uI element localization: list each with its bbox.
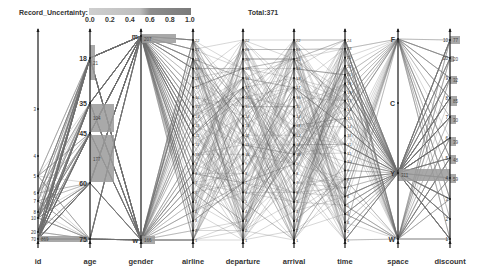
svg-text:15: 15 — [296, 104, 301, 109]
svg-text:869: 869 — [41, 237, 49, 242]
svg-text:30: 30 — [453, 118, 459, 123]
svg-text:311: 311 — [401, 173, 409, 178]
svg-text:15: 15 — [195, 104, 200, 109]
svg-text:59: 59 — [453, 177, 459, 182]
svg-text:18: 18 — [195, 76, 200, 81]
svg-text:70: 70 — [31, 237, 37, 242]
svg-text:20: 20 — [245, 57, 250, 62]
svg-text:32: 32 — [453, 78, 459, 83]
svg-text:17: 17 — [245, 85, 250, 90]
svg-text:20: 20 — [296, 57, 301, 62]
plot-area: 869345678102070211041771835456075207166m… — [0, 0, 487, 279]
svg-text:1: 1 — [296, 238, 299, 243]
svg-text:16: 16 — [245, 95, 250, 100]
axis-age[interactable]: 211041771835456075 — [79, 28, 114, 248]
svg-text:16: 16 — [195, 95, 200, 100]
svg-text:13: 13 — [296, 123, 301, 128]
svg-text:7: 7 — [347, 185, 350, 190]
parallel-coordinates-chart: Record_Uncertainty: 0.00.20.40.60.81.0 T… — [0, 0, 487, 279]
svg-text:14: 14 — [245, 114, 250, 119]
svg-text:22: 22 — [245, 38, 250, 43]
axis-label-space: space — [387, 257, 408, 266]
svg-text:10: 10 — [296, 152, 301, 157]
axis-label-age: age — [84, 257, 97, 266]
svg-text:166: 166 — [144, 238, 152, 243]
svg-text:8: 8 — [33, 210, 36, 215]
svg-text:18: 18 — [79, 55, 87, 62]
svg-text:20: 20 — [195, 57, 200, 62]
svg-text:8: 8 — [445, 96, 448, 101]
svg-text:12: 12 — [347, 142, 352, 147]
svg-text:177: 177 — [93, 157, 101, 162]
svg-text:45: 45 — [79, 130, 87, 137]
svg-text:48: 48 — [453, 158, 459, 163]
svg-text:15: 15 — [245, 104, 250, 109]
svg-text:13: 13 — [195, 123, 200, 128]
svg-text:1: 1 — [445, 237, 448, 242]
svg-text:5: 5 — [347, 203, 350, 208]
svg-text:2: 2 — [296, 228, 299, 233]
svg-text:8: 8 — [296, 171, 299, 176]
svg-text:24: 24 — [347, 38, 352, 43]
svg-text:4: 4 — [33, 154, 36, 159]
svg-text:8: 8 — [347, 177, 350, 182]
axis-gender[interactable]: 207166mw — [132, 28, 176, 248]
svg-text:14: 14 — [296, 114, 301, 119]
axis-space[interactable]: 311FCYW — [388, 28, 450, 248]
axis-time[interactable]: 242322212019181716151413121110987654321 — [344, 28, 353, 248]
svg-text:10: 10 — [443, 38, 449, 43]
svg-text:W: W — [388, 236, 395, 243]
svg-text:15: 15 — [347, 116, 352, 121]
svg-text:19: 19 — [245, 66, 250, 71]
svg-text:18: 18 — [347, 90, 352, 95]
svg-text:20: 20 — [31, 230, 37, 235]
svg-text:1: 1 — [245, 238, 248, 243]
svg-text:18: 18 — [245, 76, 250, 81]
svg-text:12: 12 — [195, 133, 200, 138]
svg-text:12: 12 — [296, 133, 301, 138]
svg-text:21: 21 — [296, 47, 301, 52]
axis-departure[interactable]: 22212019181716151413121110987654321 — [242, 28, 251, 248]
svg-text:60: 60 — [79, 180, 87, 187]
svg-text:2: 2 — [445, 217, 448, 222]
axis-label-arrival: arrival — [283, 257, 306, 266]
svg-text:85: 85 — [453, 99, 459, 104]
svg-text:3: 3 — [347, 220, 350, 225]
axis-label-gender: gender — [128, 257, 153, 266]
svg-text:104: 104 — [93, 116, 101, 121]
svg-text:F: F — [391, 36, 396, 43]
svg-text:6: 6 — [347, 194, 350, 199]
svg-text:21: 21 — [347, 64, 352, 69]
svg-text:20: 20 — [453, 57, 459, 62]
svg-text:35: 35 — [79, 100, 87, 107]
svg-text:75: 75 — [79, 236, 87, 243]
svg-text:19: 19 — [296, 66, 301, 71]
svg-text:22: 22 — [296, 38, 301, 43]
axis-label-id: id — [35, 257, 42, 266]
svg-text:7: 7 — [33, 199, 36, 204]
svg-text:10: 10 — [347, 159, 352, 164]
axis-label-airline: airline — [182, 257, 204, 266]
svg-text:12: 12 — [245, 133, 250, 138]
svg-text:10: 10 — [31, 216, 37, 221]
svg-text:19: 19 — [347, 81, 352, 86]
svg-text:14: 14 — [347, 124, 352, 129]
svg-text:13: 13 — [347, 133, 352, 138]
svg-text:2: 2 — [347, 229, 350, 234]
svg-text:23: 23 — [347, 46, 352, 51]
svg-text:13: 13 — [245, 123, 250, 128]
svg-text:Y: Y — [390, 170, 395, 177]
svg-text:17: 17 — [296, 85, 301, 90]
svg-text:w: w — [132, 237, 139, 244]
svg-text:22: 22 — [195, 38, 200, 43]
svg-text:20: 20 — [347, 72, 352, 77]
svg-text:19: 19 — [195, 66, 200, 71]
svg-text:77: 77 — [453, 38, 459, 43]
svg-text:6: 6 — [33, 191, 36, 196]
svg-text:6: 6 — [445, 136, 448, 141]
svg-text:17: 17 — [347, 98, 352, 103]
svg-text:3: 3 — [33, 107, 36, 112]
svg-text:16: 16 — [347, 107, 352, 112]
svg-text:16: 16 — [296, 95, 301, 100]
svg-text:17: 17 — [195, 85, 200, 90]
